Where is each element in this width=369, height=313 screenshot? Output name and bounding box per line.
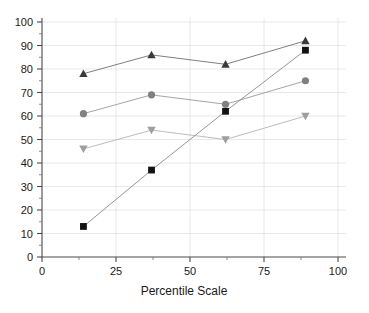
y-tick-label: 0 — [27, 251, 33, 263]
data-point-circle — [148, 91, 155, 98]
y-tick-label: 10 — [21, 228, 33, 240]
data-point-square — [302, 47, 309, 54]
x-tick-label: 75 — [258, 265, 270, 277]
data-point-circle — [302, 77, 309, 84]
x-tick-label: 100 — [329, 265, 347, 277]
y-tick-label: 90 — [21, 40, 33, 52]
x-tick-label: 50 — [184, 265, 196, 277]
y-tick-label: 70 — [21, 87, 33, 99]
x-axis-title: Percentile Scale — [141, 284, 228, 298]
data-point-circle — [222, 101, 229, 108]
chart-container: 01020304050607080901000255075100 Percent… — [0, 0, 369, 313]
y-tick-label: 30 — [21, 181, 33, 193]
y-tick-label: 60 — [21, 110, 33, 122]
y-tick-label: 40 — [21, 157, 33, 169]
x-tick-label: 25 — [110, 265, 122, 277]
y-tick-label: 50 — [21, 134, 33, 146]
line-chart: 01020304050607080901000255075100 Percent… — [0, 0, 369, 313]
data-point-square — [222, 108, 229, 115]
y-tick-label: 20 — [21, 204, 33, 216]
y-tick-label: 100 — [15, 16, 33, 28]
data-point-circle — [80, 110, 87, 117]
data-point-square — [148, 167, 155, 174]
data-point-square — [80, 223, 87, 230]
x-tick-label: 0 — [39, 265, 45, 277]
y-tick-label: 80 — [21, 63, 33, 75]
